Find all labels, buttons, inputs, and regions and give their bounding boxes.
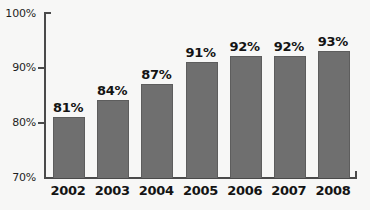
y-tick-label-90: 90% [0, 62, 36, 73]
bar-2003 [97, 100, 129, 178]
bar-value-label-2005: 91% [179, 46, 223, 59]
x-tick-label-2004: 2004 [132, 184, 180, 198]
bar-value-label-2006: 92% [223, 40, 267, 53]
bar-2004 [141, 84, 173, 178]
bar-2007 [274, 56, 306, 178]
bar-2008 [318, 51, 350, 178]
y-tick-label-80: 80% [0, 117, 36, 128]
bar-chart: 100% 90% 80% 70% 81%200284%200387%200491… [0, 0, 370, 210]
x-tick-label-2002: 2002 [44, 184, 92, 198]
bar-2002 [53, 117, 85, 178]
y-tick-label-70: 70% [0, 172, 36, 183]
x-tick-label-2007: 2007 [265, 184, 313, 198]
x-tick-label-2003: 2003 [88, 184, 136, 198]
bar-value-label-2003: 84% [90, 84, 134, 97]
bar-value-label-2007: 92% [267, 40, 311, 53]
x-tick-label-2008: 2008 [309, 184, 357, 198]
y-axis-line [44, 12, 46, 179]
y-axis-top-cap [44, 12, 51, 14]
bar-value-label-2002: 81% [46, 101, 90, 114]
y-tick-80 [38, 122, 45, 124]
bar-value-label-2004: 87% [134, 68, 178, 81]
bar-2005 [186, 62, 218, 178]
y-tick-label-100: 100% [0, 8, 36, 19]
x-axis-right-cap [355, 171, 357, 179]
bar-value-label-2008: 93% [311, 35, 355, 48]
x-tick-label-2005: 2005 [177, 184, 225, 198]
bar-2006 [230, 56, 262, 178]
y-tick-90 [38, 67, 45, 69]
x-tick-label-2006: 2006 [221, 184, 269, 198]
